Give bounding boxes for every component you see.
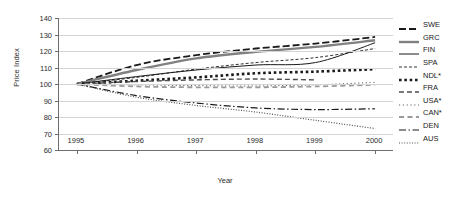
y-axis-tick xyxy=(55,35,59,36)
legend-swatch-icon xyxy=(399,108,419,118)
y-axis-tick xyxy=(55,84,59,85)
y-axis-tick xyxy=(55,134,59,135)
x-axis-title: Year xyxy=(58,176,392,185)
x-axis-tick xyxy=(77,150,78,154)
legend-swatch-icon xyxy=(399,20,419,30)
x-axis-label: 1995 xyxy=(56,136,96,145)
legend-swatch-icon xyxy=(399,96,419,106)
price-index-line-chart: Price Index 6070809010011012013014019951… xyxy=(0,0,463,197)
legend-swatch-icon xyxy=(399,83,419,93)
x-axis-label: 1997 xyxy=(175,136,215,145)
legend-item-aus[interactable]: AUS xyxy=(399,132,461,145)
y-axis-label: 130 xyxy=(22,30,52,39)
gridline xyxy=(59,68,393,69)
legend-swatch-icon xyxy=(399,121,419,131)
x-axis-tick xyxy=(196,150,197,154)
legend-item-can[interactable]: CAN* xyxy=(399,107,461,120)
legend-item-spa[interactable]: SPA xyxy=(399,57,461,70)
y-axis-label: 100 xyxy=(22,80,52,89)
legend-label: FIN xyxy=(423,45,435,55)
y-axis-label: 80 xyxy=(22,113,52,122)
x-axis-tick xyxy=(315,150,316,154)
gridline xyxy=(59,134,393,135)
gridline xyxy=(59,18,393,19)
y-axis-label: 110 xyxy=(22,63,52,72)
legend-item-swe[interactable]: SWE xyxy=(399,19,461,32)
x-axis-tick xyxy=(256,150,257,154)
y-axis-tick xyxy=(55,68,59,69)
y-axis-label: 60 xyxy=(22,146,52,155)
gridline xyxy=(59,51,393,52)
y-axis-tick xyxy=(55,18,59,19)
legend-item-den[interactable]: DEN xyxy=(399,120,461,133)
gridline xyxy=(59,117,393,118)
legend-item-grc[interactable]: GRC xyxy=(399,32,461,45)
series-line-fin xyxy=(77,43,375,84)
legend-label: GRC xyxy=(423,33,440,43)
y-axis-tick xyxy=(55,117,59,118)
legend-item-fin[interactable]: FIN xyxy=(399,44,461,57)
legend-label: USA* xyxy=(423,96,441,106)
y-axis-label: 140 xyxy=(22,14,52,23)
legend-label: FRA xyxy=(423,83,438,93)
legend-label: CAN* xyxy=(423,108,442,118)
legend-label: NDL* xyxy=(423,71,441,81)
y-axis-tick xyxy=(55,150,59,151)
y-axis-title: Price Index xyxy=(12,33,21,103)
legend-item-usa[interactable]: USA* xyxy=(399,95,461,108)
y-axis-label: 120 xyxy=(22,47,52,56)
x-axis-label: 1999 xyxy=(294,136,334,145)
x-axis-label: 1996 xyxy=(116,136,156,145)
y-axis-label: 90 xyxy=(22,96,52,105)
legend-swatch-icon xyxy=(399,134,419,144)
gridline xyxy=(59,101,393,102)
plot-area xyxy=(58,18,393,151)
legend-label: SPA xyxy=(423,58,437,68)
legend-swatch-icon xyxy=(399,33,419,43)
gridline xyxy=(59,35,393,36)
x-axis-tick xyxy=(137,150,138,154)
legend: SWEGRCFINSPANDL*FRAUSA*CAN*DENAUS xyxy=(399,19,461,145)
legend-label: DEN xyxy=(423,121,439,131)
legend-item-fra[interactable]: FRA xyxy=(399,82,461,95)
series-line-swe xyxy=(77,37,375,84)
series-line-grc xyxy=(77,40,375,84)
legend-swatch-icon xyxy=(399,45,419,55)
legend-item-ndl[interactable]: NDL* xyxy=(399,69,461,82)
legend-swatch-icon xyxy=(399,71,419,81)
y-axis-label: 70 xyxy=(22,129,52,138)
legend-label: AUS xyxy=(423,134,438,144)
y-axis-tick xyxy=(55,51,59,52)
y-axis-tick xyxy=(55,101,59,102)
gridline xyxy=(59,84,393,85)
x-axis-label: 2000 xyxy=(354,136,394,145)
x-axis-tick xyxy=(375,150,376,154)
legend-label: SWE xyxy=(423,20,440,30)
x-axis-label: 1998 xyxy=(235,136,275,145)
legend-swatch-icon xyxy=(399,58,419,68)
